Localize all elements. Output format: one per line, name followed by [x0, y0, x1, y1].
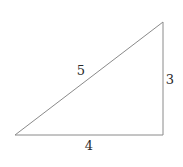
- base-label: 4: [85, 139, 93, 152]
- hypotenuse-label: 5: [77, 64, 85, 77]
- height-label: 3: [166, 73, 174, 86]
- diagram-canvas: 5 4 3: [0, 0, 183, 167]
- right-triangle: [15, 22, 163, 135]
